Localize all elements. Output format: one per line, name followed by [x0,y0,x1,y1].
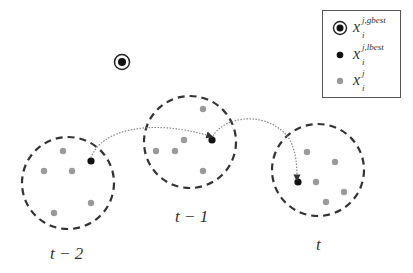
particle [172,148,178,154]
legend-item-lbest: x j,lbest i [323,42,400,68]
trajectory-path-2 [213,119,297,178]
particle [341,189,347,195]
legend-particle-sub: i [362,83,365,93]
legend-particle-symbol: x [353,71,360,89]
legend: x j,gbest i x j,lbest i x j i [322,10,401,98]
legend-lbest-sub: i [362,57,365,67]
particle [323,199,329,205]
neighborhood-t [272,124,364,216]
label-t: t [316,235,321,255]
neighborhood-circle [144,96,236,188]
legend-lbest-symbol: x [353,45,360,63]
legend-gbest-symbol: x [353,18,360,36]
legend-gbest-sup: j,gbest [362,15,386,25]
legend-lbest-sup: j,lbest [362,42,384,52]
gbest-marker-icon [329,15,353,41]
particle [313,179,319,185]
neighborhood-circle [272,124,364,216]
local-best-particle [294,178,301,185]
particle-marker-icon [329,68,353,94]
label-t-minus-2: t − 2 [50,244,83,264]
global-best-marker [115,55,130,70]
particle [304,149,310,155]
particle [51,210,57,216]
neighborhood-t-minus-2 [22,137,114,229]
particle [60,148,66,154]
legend-particle-sup: j [362,68,365,78]
legend-gbest-sub: i [362,30,365,40]
particle [153,148,159,154]
local-best-particle [208,136,215,143]
legend-item-particle: x j i [323,68,400,94]
legend-item-gbest: x j,gbest i [323,15,400,41]
particle [332,159,338,165]
particle [88,200,94,206]
lbest-marker-icon [329,42,353,68]
neighborhood-t-minus-1 [144,96,236,188]
particle [200,168,206,174]
label-t-minus-1: t − 1 [175,207,208,227]
particle [41,168,47,174]
particle [181,137,187,143]
trajectory-path-1 [91,127,210,158]
neighborhood-circle [22,137,114,229]
local-best-particle [87,157,94,164]
particle [200,106,206,112]
particle [69,168,75,174]
